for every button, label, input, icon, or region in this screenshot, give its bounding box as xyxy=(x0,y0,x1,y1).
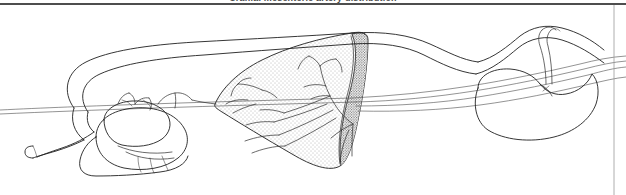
stomach xyxy=(80,101,188,176)
figure-page: Cranial mesenteric artery distribution xyxy=(0,0,626,195)
kidney xyxy=(475,69,598,140)
blind-end-tube xyxy=(25,132,94,158)
anatomical-line-drawing xyxy=(0,0,626,195)
